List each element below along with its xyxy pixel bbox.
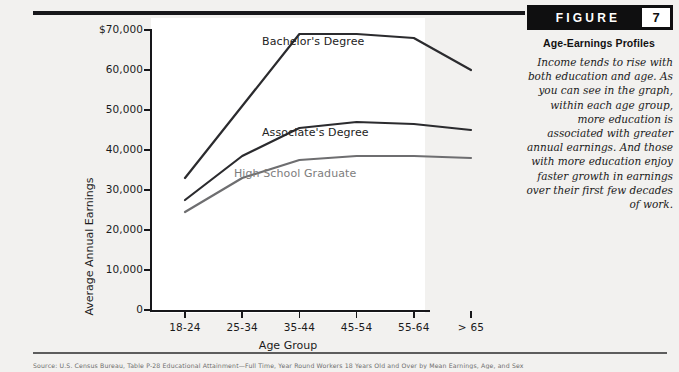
y-tick-label-wrap: 10,000 [63, 263, 143, 275]
y-tick-mark [144, 309, 151, 311]
y-tick-label-wrap: 30,000 [63, 183, 143, 195]
x-tick-label: > 65 [441, 321, 501, 333]
x-tick-mark [356, 311, 358, 318]
y-tick-label: 40,000 [73, 143, 143, 155]
x-axis-line [150, 310, 430, 312]
y-tick-label-wrap: $70,000 [63, 23, 143, 35]
bottom-divider-rule [33, 352, 667, 354]
figure-title: Age-Earnings Profiles [523, 37, 675, 49]
x-tick-mark [241, 311, 243, 318]
y-tick-label-wrap: 40,000 [63, 143, 143, 155]
y-tick-label: 60,000 [73, 63, 143, 75]
x-tick-mark [413, 311, 415, 318]
y-tick-mark [144, 29, 151, 31]
figure-badge: FIGURE 7 [527, 5, 673, 30]
x-tick-label: 25-34 [212, 321, 272, 333]
figure-badge-number: 7 [642, 8, 670, 27]
series-label-2: High School Graduate [234, 167, 356, 180]
x-tick-label: 45-54 [327, 321, 387, 333]
y-tick-label-wrap: 50,000 [63, 103, 143, 115]
y-tick-label: 50,000 [73, 103, 143, 115]
x-axis-title: Age Group [198, 339, 378, 352]
y-tick-mark [144, 189, 151, 191]
plot-background [151, 18, 425, 313]
y-tick-label-wrap: 20,000 [63, 223, 143, 235]
y-tick-mark [144, 229, 151, 231]
y-tick-mark [144, 149, 151, 151]
figure-description: Income tends to rise with both education… [523, 55, 675, 211]
series-label-0: Bachelor's Degree [262, 35, 364, 48]
y-tick-mark [144, 269, 151, 271]
y-axis-title: Average Annual Earnings [83, 162, 96, 332]
x-tick-label: 55-64 [384, 321, 444, 333]
figure-caption-column: FIGURE 7 Age-Earnings Profiles Income te… [523, 5, 675, 211]
x-tick-label: 18-24 [155, 321, 215, 333]
x-tick-mark [184, 311, 186, 318]
y-axis-title-wrap: Average Annual Earnings [48, 80, 68, 250]
y-tick-label: $70,000 [73, 23, 143, 35]
figure-page: 010,00020,00030,00040,00050,00060,000$70… [0, 0, 679, 372]
series-label-1: Associate's Degree [262, 126, 369, 139]
x-tick-mark [470, 311, 472, 318]
x-tick-label: 35-44 [269, 321, 329, 333]
figure-badge-word: FIGURE [530, 8, 642, 27]
top-divider-rule [33, 11, 525, 15]
x-tick-mark [299, 311, 301, 318]
y-tick-mark [144, 69, 151, 71]
y-tick-mark [144, 109, 151, 111]
y-tick-label-wrap: 60,000 [63, 63, 143, 75]
y-tick-label-wrap: 0 [63, 303, 143, 315]
source-note: Source: U.S. Census Bureau, Table P-28 E… [33, 362, 673, 369]
